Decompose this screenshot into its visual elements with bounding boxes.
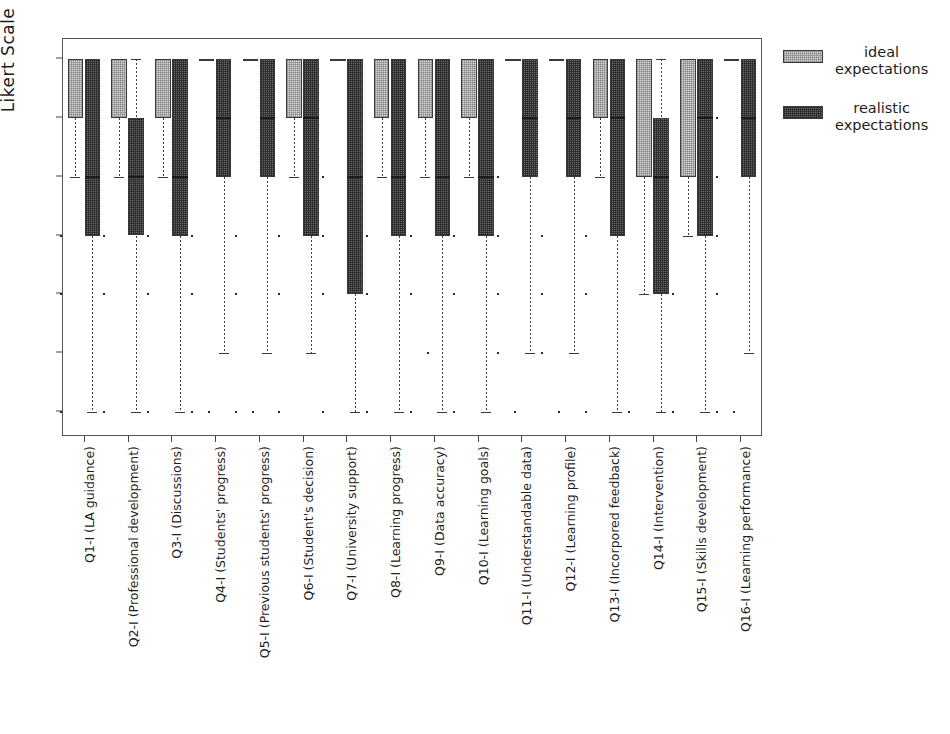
outlier-point — [716, 117, 718, 119]
whisker-lower — [311, 236, 312, 354]
median-line — [697, 117, 713, 119]
median-line — [522, 117, 538, 119]
x-axis-tick-label-10: Q10-I (Learning goals) — [475, 446, 490, 585]
box — [391, 59, 407, 236]
median-line — [172, 176, 188, 178]
whisker-lower — [355, 294, 356, 412]
outlier-point — [453, 235, 455, 237]
outlier-point — [541, 235, 543, 237]
outlier-point — [366, 411, 368, 413]
box — [111, 59, 127, 118]
whisker-lower — [617, 236, 618, 413]
outlier-point — [716, 176, 718, 178]
whisker-cap-lower — [114, 177, 124, 178]
outlier-point — [585, 293, 587, 295]
box — [505, 59, 521, 61]
x-axis-tick-mark — [478, 436, 479, 442]
x-axis-tick-mark — [84, 436, 85, 442]
outlier-point — [410, 235, 412, 237]
outlier-point — [322, 235, 324, 237]
x-axis-tick-label-16: Q16-I (Learning performance) — [738, 446, 753, 632]
x-axis-tick-label-13: Q13-I (Incorpored feedback) — [606, 446, 621, 622]
legend-item-2[interactable]: realisticexpectations — [783, 102, 948, 138]
box — [418, 59, 434, 118]
whisker-cap-lower — [350, 412, 360, 413]
x-axis-tick-mark — [740, 436, 741, 442]
outlier-point — [558, 411, 560, 413]
outlier-point — [410, 411, 412, 413]
outlier-point — [60, 411, 62, 413]
legend-item-1[interactable]: idealexpectations — [783, 46, 948, 82]
x-axis-tick-label-3: Q3-I (Discussions) — [169, 446, 184, 559]
legend-label: realisticexpectations — [835, 100, 928, 134]
outlier-point — [322, 411, 324, 413]
whisker-lower — [705, 236, 706, 413]
median-line — [566, 117, 582, 119]
whisker-lower — [136, 236, 137, 413]
outlier-point — [672, 411, 674, 413]
plot-area — [62, 38, 762, 436]
box — [68, 59, 84, 118]
box — [593, 59, 609, 118]
x-axis-tick-label-6: Q6-I (Student's decision) — [300, 446, 315, 600]
legend-label-line1: ideal — [835, 44, 928, 61]
whisker-cap-lower — [744, 353, 754, 354]
median-line — [347, 176, 363, 178]
whisker-lower — [180, 236, 181, 413]
outlier-point — [208, 411, 210, 413]
whisker-lower — [224, 177, 225, 354]
outlier-point — [322, 176, 324, 178]
median-line — [216, 117, 232, 119]
x-axis-tick-label-9: Q9-I (Data accuracy) — [431, 446, 446, 576]
whisker-cap-lower — [219, 353, 229, 354]
whisker-cap-lower — [394, 412, 404, 413]
median-line — [653, 176, 669, 178]
outlier-point — [716, 411, 718, 413]
median-line — [435, 176, 451, 178]
outlier-point — [147, 235, 149, 237]
whisker-lower — [119, 118, 120, 177]
whisker-cap-lower — [87, 412, 97, 413]
median-line — [303, 117, 319, 119]
outlier-point — [191, 411, 193, 413]
box — [199, 59, 215, 61]
whisker-cap-lower — [656, 412, 666, 413]
whisker-lower — [644, 177, 645, 295]
outlier-point — [453, 411, 455, 413]
outlier-point — [235, 293, 237, 295]
whisker-lower — [574, 177, 575, 354]
outlier-point — [191, 235, 193, 237]
box — [478, 59, 494, 236]
outlier-point — [672, 293, 674, 295]
outlier-point — [103, 411, 105, 413]
x-axis-tick-mark — [521, 436, 522, 442]
x-axis-tick-mark — [434, 436, 435, 442]
whisker-lower — [469, 118, 470, 177]
outlier-point — [103, 293, 105, 295]
whisker-lower — [600, 118, 601, 177]
median-line — [478, 176, 494, 178]
box — [435, 59, 451, 236]
box — [680, 59, 696, 177]
whisker-cap-lower — [437, 412, 447, 413]
outlier-point — [716, 235, 718, 237]
whisker-cap-lower — [175, 412, 185, 413]
whisker-lower — [267, 177, 268, 354]
outlier-point — [733, 411, 735, 413]
box — [653, 118, 669, 295]
median-line — [391, 176, 407, 178]
whisker-upper — [136, 59, 137, 118]
whisker-cap-lower — [158, 177, 168, 178]
median-line — [260, 117, 276, 119]
box — [286, 59, 302, 118]
outlier-point — [541, 293, 543, 295]
outlier-point — [541, 352, 543, 354]
x-axis-tick-label-7: Q7-I (University support) — [344, 446, 359, 601]
outlier-point — [147, 411, 149, 413]
whisker-cap-lower — [70, 177, 80, 178]
outlier-point — [497, 352, 499, 354]
outlier-point — [497, 176, 499, 178]
median-line — [741, 117, 757, 119]
x-axis-tick-mark — [653, 436, 654, 442]
x-axis-tick-mark — [609, 436, 610, 442]
